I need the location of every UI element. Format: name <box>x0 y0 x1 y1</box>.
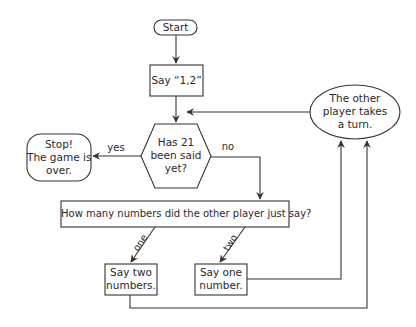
sayone-line2: number. <box>195 279 247 292</box>
other-line2: player takes <box>310 105 400 118</box>
question-label: How many numbers did the other player ju… <box>61 207 289 220</box>
saytwo-line1: Say two <box>105 266 157 279</box>
sayone-label: Say one number. <box>195 266 247 292</box>
stop-line2: The game is <box>27 151 91 164</box>
other-line3: a turn. <box>310 118 400 131</box>
sayone-line1: Say one <box>195 266 247 279</box>
stop-line3: over. <box>27 164 91 177</box>
decision-label: Has 21 been said yet? <box>141 136 211 175</box>
stop-label: Stop! The game is over. <box>27 138 91 177</box>
decision-line1: Has 21 <box>141 136 211 149</box>
stop-line1: Stop! <box>27 138 91 151</box>
decision-line3: yet? <box>141 162 211 175</box>
edge-label-no: no <box>218 140 238 153</box>
edge-no <box>211 157 260 199</box>
saytwo-line2: numbers. <box>105 279 157 292</box>
start-label: Start <box>154 21 197 34</box>
say12-label: Say “1,2” <box>150 74 203 87</box>
saytwo-label: Say two numbers. <box>105 266 157 292</box>
edge-label-yes: yes <box>104 141 128 154</box>
other-label: The other player takes a turn. <box>310 92 400 131</box>
other-line1: The other <box>310 92 400 105</box>
decision-line2: been said <box>141 149 211 162</box>
